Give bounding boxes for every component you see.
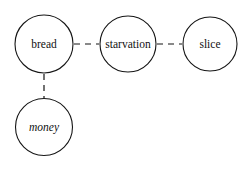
node-label-bread: bread xyxy=(31,38,57,50)
node-starvation[interactable]: starvation xyxy=(100,16,156,72)
node-label-money: money xyxy=(29,121,60,134)
diagram-canvas: bread starvation slice money xyxy=(0,0,251,169)
edge-group xyxy=(44,44,182,98)
node-slice[interactable]: slice xyxy=(183,17,237,71)
graph-svg: bread starvation slice money xyxy=(0,0,251,169)
node-label-starvation: starvation xyxy=(105,38,151,50)
node-bread[interactable]: bread xyxy=(15,15,73,73)
node-label-slice: slice xyxy=(199,38,220,50)
node-money[interactable]: money xyxy=(16,99,73,156)
